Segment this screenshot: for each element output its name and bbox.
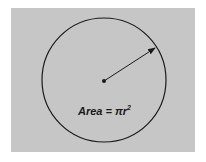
circle-diagram: Area = πr2 bbox=[0, 0, 206, 162]
radius-arrow bbox=[104, 48, 155, 81]
area-formula: Area = πr2 bbox=[77, 104, 131, 117]
